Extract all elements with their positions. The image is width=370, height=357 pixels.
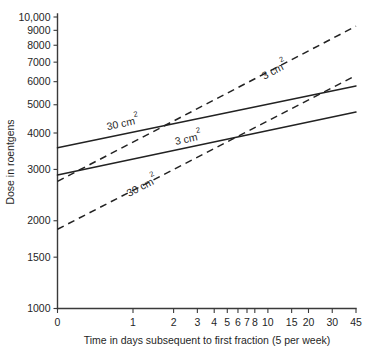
series-line	[58, 86, 357, 148]
series-label-superscript: 2	[195, 125, 201, 135]
y-tick-label: 9000	[27, 24, 51, 36]
series-label: 3 cm2	[173, 125, 203, 147]
y-tick-label: 4000	[27, 127, 51, 139]
series-label: 30 cm2	[104, 109, 140, 132]
x-tick-label: 8	[252, 316, 258, 328]
y-tick-label: 7000	[27, 56, 51, 68]
series-label-group: 3 cm2	[257, 54, 289, 82]
series-label-superscript: 2	[132, 109, 138, 119]
x-tick-label: 10	[262, 316, 274, 328]
y-tick-label: 10,000	[18, 11, 50, 23]
x-tick-label: 0	[55, 316, 61, 328]
y-axis-ticks: 1000150020003000400050006000700080009000…	[18, 11, 57, 315]
x-tick-label: 20	[303, 316, 315, 328]
series-labels: 30 cm23 cm23 cm230 cm2	[104, 54, 289, 199]
y-tick-label: 1000	[27, 302, 51, 314]
x-tick-label: 7	[244, 316, 250, 328]
series-label-group: 30 cm2	[104, 109, 140, 132]
y-tick-label: 6000	[27, 75, 51, 87]
x-tick-label: 4	[211, 316, 217, 328]
y-tick-label: 5000	[27, 98, 51, 110]
x-axis-ticks: 0123456781015203045	[55, 309, 362, 328]
x-tick-label: 5	[224, 316, 230, 328]
x-tick-label: 3	[194, 316, 200, 328]
x-tick-label: 30	[326, 316, 338, 328]
series-label: 30 cm2	[122, 169, 159, 199]
y-axis-title: Dose in roentgens	[4, 119, 16, 204]
series-label: 3 cm2	[257, 54, 289, 82]
y-tick-label: 2000	[27, 214, 51, 226]
x-tick-label: 15	[286, 316, 298, 328]
chart-container: 1000150020003000400050006000700080009000…	[0, 0, 370, 357]
series-label-group: 3 cm2	[173, 125, 203, 147]
y-tick-label: 1500	[27, 251, 51, 263]
x-tick-label: 1	[130, 316, 136, 328]
plot-axes	[58, 14, 357, 309]
series-label-text: 30 cm	[105, 115, 136, 133]
series-line	[58, 75, 357, 229]
series-line	[58, 26, 357, 181]
series-label-text: 3 cm	[174, 130, 199, 146]
x-axis-title: Time in days subsequent to first fractio…	[84, 334, 330, 346]
x-tick-label: 2	[171, 316, 177, 328]
dose-time-chart: 1000150020003000400050006000700080009000…	[0, 0, 370, 357]
y-tick-label: 3000	[27, 163, 51, 175]
series-label-group: 30 cm2	[122, 169, 159, 199]
series-lines	[58, 26, 357, 229]
x-tick-label: 6	[235, 316, 241, 328]
x-tick-label: 45	[350, 316, 362, 328]
series-line	[58, 112, 357, 175]
y-tick-label: 8000	[27, 39, 51, 51]
